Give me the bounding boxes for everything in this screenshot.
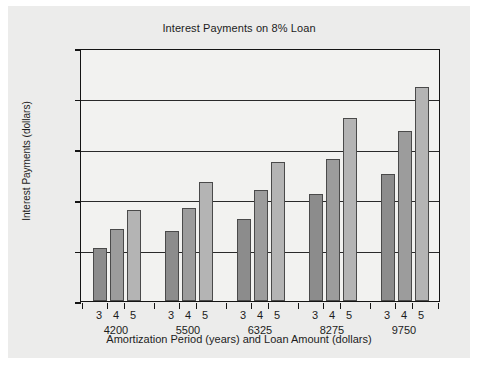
chart-title: Interest Payments on 8% Loan <box>8 22 470 34</box>
x-axis-title: Amortization Period (years) and Loan Amo… <box>8 333 470 345</box>
y-axis-tick-mark <box>75 252 81 254</box>
bar <box>398 131 412 301</box>
chart-figure: Interest Payments on 8% Loan Interest Pa… <box>8 6 470 358</box>
bar <box>93 248 107 301</box>
y-axis-tick-mark <box>75 201 81 203</box>
x-axis-year-label: 5 <box>410 309 432 321</box>
bar <box>343 118 357 301</box>
gridline <box>81 151 439 152</box>
x-axis-tick-mark <box>226 303 227 309</box>
x-axis-year-label: 5 <box>122 309 144 321</box>
plot-area: Interest Payments (dollars) 050010001500… <box>80 49 440 302</box>
bar <box>182 208 196 301</box>
bar <box>326 159 340 301</box>
y-axis-tick-mark <box>75 49 81 51</box>
y-axis-tick-mark <box>75 100 81 102</box>
bar <box>110 229 124 301</box>
gridline <box>81 100 439 101</box>
bar <box>237 219 251 301</box>
x-axis-layer: 34542003455500345632534582753459750 <box>80 303 440 353</box>
x-axis-year-label: 5 <box>194 309 216 321</box>
bar <box>127 210 141 301</box>
bar <box>254 190 268 301</box>
x-axis-tick-mark <box>82 303 83 309</box>
bar <box>165 231 179 301</box>
y-axis-tick-mark <box>75 150 81 152</box>
x-axis-year-label: 5 <box>266 309 288 321</box>
bar <box>381 174 395 302</box>
y-axis-title: Interest Payments (dollars) <box>21 86 32 236</box>
x-axis-tick-mark <box>370 303 371 309</box>
bar <box>309 194 323 301</box>
x-axis-tick-mark <box>298 303 299 309</box>
x-axis-year-label: 5 <box>338 309 360 321</box>
x-axis-tick-mark <box>154 303 155 309</box>
bar <box>415 87 429 301</box>
x-axis-tick-mark <box>438 303 439 309</box>
bar <box>199 182 213 301</box>
bar <box>271 162 285 301</box>
